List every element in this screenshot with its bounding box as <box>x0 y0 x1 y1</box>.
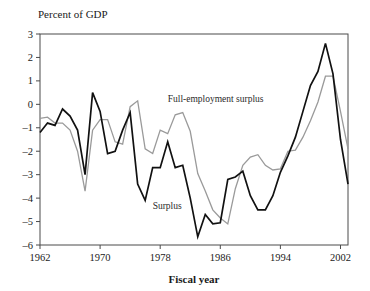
y-tick-label: –1 <box>22 122 34 133</box>
x-axis-title: Fiscal year <box>168 273 219 285</box>
y-tick-label: –2 <box>22 146 34 157</box>
x-tick-label: 1962 <box>30 252 51 263</box>
y-tick-label: –4 <box>22 193 34 204</box>
y-axis-title: Percent of GDP <box>38 8 108 20</box>
y-tick-label: 1 <box>28 75 33 86</box>
x-tick-label: 1970 <box>90 252 111 263</box>
x-tick-label: 1978 <box>150 252 171 263</box>
y-tick-label: 2 <box>28 52 33 63</box>
x-tick-label: 1994 <box>270 252 292 263</box>
y-tick-label: –3 <box>22 169 34 180</box>
series-annotations: SurplusFull-employment surplus <box>153 94 264 211</box>
y-tick-label: –5 <box>22 216 34 227</box>
series-label-surplus: Surplus <box>153 201 182 211</box>
series-label-full-employment-surplus: Full-employment surplus <box>168 94 264 104</box>
chart-container: Percent of GDP 3210–1–2–3–4–5–6 19621970… <box>0 0 370 291</box>
x-tick-label: 2002 <box>330 252 351 263</box>
y-tick-label: 3 <box>28 29 33 40</box>
y-tick-label: 0 <box>28 99 33 110</box>
x-tick-label: 1986 <box>210 252 231 263</box>
series-lines <box>40 43 348 236</box>
y-tick-label: –6 <box>22 240 34 251</box>
line-chart: Percent of GDP 3210–1–2–3–4–5–6 19621970… <box>0 0 370 291</box>
x-axis-ticks: 196219701978198619942002 <box>30 245 351 263</box>
y-axis-ticks: 3210–1–2–3–4–5–6 <box>22 29 41 251</box>
